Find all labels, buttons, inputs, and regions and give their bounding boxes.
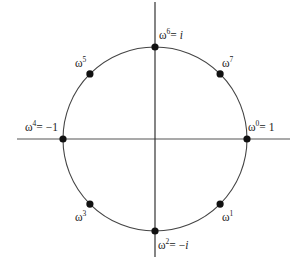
root-point-w1 bbox=[217, 201, 224, 208]
root-label-w3: ω3 bbox=[75, 212, 86, 224]
root-point-w7 bbox=[217, 70, 224, 77]
value-text: = i bbox=[170, 29, 183, 41]
value-text: = 1 bbox=[259, 121, 274, 133]
omega-symbol: ω bbox=[25, 121, 33, 133]
exponent: 3 bbox=[83, 209, 87, 218]
root-label-w4: ω4= −1 bbox=[25, 122, 58, 134]
exponent: 0 bbox=[256, 119, 260, 128]
root-point-w5 bbox=[86, 70, 93, 77]
root-label-w7: ω7 bbox=[222, 58, 233, 70]
exponent: 5 bbox=[83, 55, 87, 64]
omega-symbol: ω bbox=[75, 57, 83, 69]
root-label-w5: ω5 bbox=[75, 58, 86, 70]
root-point-w3 bbox=[86, 201, 93, 208]
roots-of-unity-diagram bbox=[0, 0, 306, 272]
exponent: 4 bbox=[33, 119, 37, 128]
root-point-w4 bbox=[59, 135, 66, 142]
value-text: = −1 bbox=[36, 121, 58, 133]
omega-symbol: ω bbox=[158, 239, 166, 251]
root-label-w1: ω1 bbox=[222, 212, 233, 224]
root-point-w2 bbox=[151, 227, 158, 234]
exponent: 7 bbox=[230, 55, 234, 64]
omega-symbol: ω bbox=[222, 57, 230, 69]
omega-symbol: ω bbox=[248, 121, 256, 133]
value-text: = −i bbox=[169, 239, 188, 251]
root-label-w2: ω2= −i bbox=[158, 240, 188, 252]
root-point-w0 bbox=[243, 135, 250, 142]
omega-symbol: ω bbox=[159, 29, 167, 41]
exponent: 6 bbox=[167, 27, 171, 36]
root-point-w6 bbox=[151, 43, 158, 50]
exponent: 1 bbox=[230, 209, 234, 218]
root-label-w0: ω0= 1 bbox=[248, 122, 274, 134]
omega-symbol: ω bbox=[222, 211, 230, 223]
exponent: 2 bbox=[166, 237, 170, 246]
root-label-w6: ω6= i bbox=[159, 30, 183, 42]
omega-symbol: ω bbox=[75, 211, 83, 223]
